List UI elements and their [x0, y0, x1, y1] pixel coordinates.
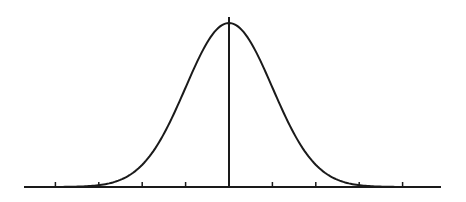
bell-curve-chart: [0, 0, 466, 202]
